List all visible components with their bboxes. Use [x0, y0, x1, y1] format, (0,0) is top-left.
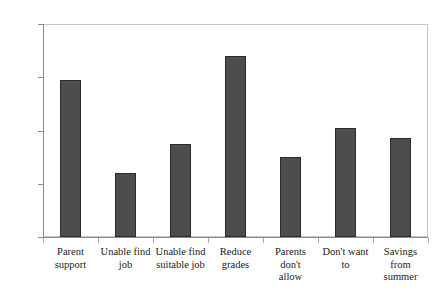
x-axis-category-label-line: Parents don't — [264, 246, 318, 271]
x-axis-category-label-line: from — [374, 259, 428, 272]
x-axis-category-label: Parents don'tallow — [264, 246, 318, 284]
x-axis-category-label-line: Unable find — [154, 246, 208, 259]
x-axis-category-label-line: Unable find — [99, 246, 153, 259]
x-axis-category-label: Reducegrades — [209, 246, 263, 271]
x-axis-category-label-line: grades — [209, 259, 263, 272]
x-axis-tick-mark — [373, 238, 374, 243]
bar — [60, 80, 81, 237]
y-axis-line — [43, 24, 44, 238]
x-axis-category-label: Unable findjob — [99, 246, 153, 271]
x-axis-tick-mark — [318, 238, 319, 243]
x-axis-category-label-line: job — [99, 259, 153, 272]
x-axis-tick-mark — [43, 238, 44, 243]
x-axis-category-label-line: summer — [374, 271, 428, 284]
x-axis-line — [43, 237, 428, 238]
y-axis-tick-mark — [38, 24, 43, 25]
x-axis-category-label-line: Parent — [44, 246, 98, 259]
x-axis-tick-mark — [98, 238, 99, 243]
y-axis-tick-mark — [38, 184, 43, 185]
bar — [170, 144, 191, 237]
y-axis-tick-mark — [38, 131, 43, 132]
x-axis-category-label: Unable findsuitable job — [154, 246, 208, 271]
x-axis-tick-mark — [208, 238, 209, 243]
bar — [390, 138, 411, 237]
x-axis-category-label-line: Savings — [374, 246, 428, 259]
x-axis-tick-mark — [153, 238, 154, 243]
x-axis-category-label-line: suitable job — [154, 259, 208, 272]
x-axis-category-label-line: Don't want — [319, 246, 373, 259]
x-axis-category-label-line: to — [319, 259, 373, 272]
bar — [280, 157, 301, 237]
x-axis-tick-mark — [428, 238, 429, 243]
bar-chart: 020406080 ParentsupportUnable findjobUna… — [0, 0, 445, 298]
x-axis-category-label: Parentsupport — [44, 246, 98, 271]
x-axis-category-label: Savingsfromsummer — [374, 246, 428, 284]
x-axis-category-label: Don't wantto — [319, 246, 373, 271]
x-axis-tick-mark — [263, 238, 264, 243]
bar — [225, 56, 246, 237]
bar — [335, 128, 356, 237]
x-axis-category-label-line: allow — [264, 271, 318, 284]
x-axis-category-label-line: Reduce — [209, 246, 263, 259]
x-axis-category-label-line: support — [44, 259, 98, 272]
bar — [115, 173, 136, 237]
y-axis-tick-mark — [38, 77, 43, 78]
